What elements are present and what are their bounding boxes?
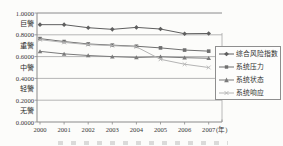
legend-label: 系统压力 [236,63,264,71]
y-band-label-轻警: 轻警 [6,85,34,93]
legend-item-综合风险指数: 综合风险指数 [219,50,278,58]
x-tick-label-2000: 2000 [28,126,52,133]
x-tick-label-2007: 2007 [197,126,221,133]
series-0-point-marker [110,27,115,32]
legend-label: 系统响应 [236,89,264,97]
y-band-label-中警: 中警 [6,64,34,72]
legend-item-系统状态: 系统状态 [219,76,278,84]
x-tick-label-2004: 2004 [124,126,148,133]
y-tick-label-0.0000: 0.0000 [0,119,34,126]
risk-index-line-chart-figure: 1.00000.80000.60000.40000.20000.0000巨警重警… [0,0,283,146]
legend-label: 综合风险指数 [236,50,278,58]
y-tick-label-0.6000: 0.6000 [0,53,34,60]
series-0-point-marker [158,27,163,32]
series-0-point-marker [134,25,139,30]
x-tick-label-2001: 2001 [52,126,76,133]
y-band-label-重警: 重警 [6,42,34,50]
x-tick-label-2002: 2002 [76,126,100,133]
series-1-point-marker [207,49,211,53]
legend-label: 系统状态 [236,76,264,84]
y-tick-label-1.0000: 1.0000 [0,10,34,17]
y-band-label-无警: 无警 [6,107,34,115]
x-tick-label-2003: 2003 [100,126,124,133]
x-tick-label-2005: 2005 [149,126,173,133]
series-line-综合风险指数 [40,25,209,34]
series-0-point-marker [38,22,43,27]
legend-item-系统响应: 系统响应 [219,89,278,97]
legend-item-系统压力: 系统压力 [219,63,278,71]
y-tick-label-0.8000: 0.8000 [0,31,34,38]
x-tick-label-2006: 2006 [173,126,197,133]
legend-x-marker-icon [219,89,234,97]
legend-diamond-marker-icon [219,50,234,58]
cropped-caption-fragment [58,141,228,145]
series-0-point-marker [62,22,67,27]
series-1-point-marker [183,48,187,52]
y-tick-label-0.2000: 0.2000 [0,97,34,104]
legend-square-marker-icon [219,63,234,71]
series-0-point-marker [182,31,187,36]
series-0-point-marker [86,25,91,30]
y-band-label-巨警: 巨警 [6,20,34,28]
series-1-point-marker [159,46,163,50]
chart-legend: 综合风险指数系统压力系统状态系统响应 [215,46,281,100]
y-tick-label-0.4000: 0.4000 [0,75,34,82]
legend-triangle-marker-icon [219,76,234,84]
